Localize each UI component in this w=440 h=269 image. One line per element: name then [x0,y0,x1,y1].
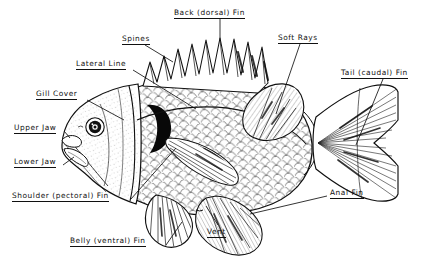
label-tail-caudal-fin: Tail (caudal) Fin [341,68,408,79]
caudal-fin [313,85,398,201]
label-vent: Vent [207,227,226,238]
dorsal-fin-spiny [143,38,268,93]
label-belly-ventral-fin: Belly (ventral) Fin [70,236,146,247]
eye [86,118,104,136]
label-anal-fin: Anal Fin [330,188,364,199]
label-lower-jaw: Lower Jaw [14,157,56,168]
label-shoulder-pectoral-fin: Shoulder (pectoral) Fin [12,191,109,202]
figure-canvas: Back (dorsal) Fin Spines Lateral Line Gi… [0,0,440,269]
label-soft-rays: Soft Rays [278,33,318,44]
label-spines: Spines [122,34,150,45]
label-gill-cover: Gill Cover [36,89,77,100]
label-upper-jaw: Upper Jaw [14,123,56,134]
label-back-dorsal-fin: Back (dorsal) Fin [174,8,245,19]
label-lateral-line: Lateral Line [76,59,126,70]
leader-spines [145,45,173,62]
